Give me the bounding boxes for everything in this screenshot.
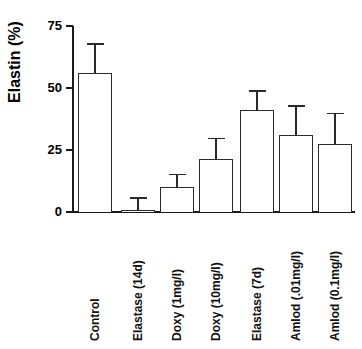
error-bar-cap-7: [327, 113, 344, 115]
bar-3: [160, 187, 194, 212]
x-axis-label-7: Amlod (0.1mg/l): [329, 251, 341, 341]
bar-6: [279, 135, 313, 212]
x-axis-label-1: Control: [89, 298, 101, 341]
elastin-bar-chart-figure: Elastin (%) 0255075 ControlElastase (14d…: [0, 0, 362, 349]
error-bar-stem-5: [256, 90, 258, 110]
x-axis-label-4: Doxy (10mg/l): [210, 262, 222, 341]
error-bar-stem-2: [137, 197, 139, 209]
y-tick-mark-25: [66, 149, 73, 151]
y-tick-mark-75: [66, 25, 73, 27]
error-bar-cap-1: [87, 43, 104, 45]
bar-7: [318, 144, 352, 212]
x-axis-label-2: Elastase (14d): [132, 260, 144, 341]
y-tick-mark-50: [66, 87, 73, 89]
error-bar-cap-4: [208, 138, 225, 140]
plot-area: 0255075 ControlElastase (14d)Doxy (1mg/l…: [0, 0, 362, 349]
bar-1: [78, 73, 112, 212]
error-bar-stem-1: [94, 43, 96, 73]
y-tick-label-25: 25: [18, 143, 62, 156]
error-bar-stem-3: [176, 174, 178, 188]
error-bar-cap-3: [169, 174, 186, 176]
x-axis-label-5: Elastase (7d): [251, 267, 263, 341]
x-axis-label-3: Doxy (1mg/l): [171, 269, 183, 341]
bar-5: [240, 110, 274, 212]
error-bar-stem-6: [295, 105, 297, 135]
error-bar-stem-7: [334, 113, 336, 144]
bar-2: [121, 210, 155, 212]
error-bar-cap-5: [249, 90, 266, 92]
y-tick-label-75: 75: [18, 19, 62, 32]
y-tick-label-0: 0: [18, 205, 62, 218]
y-tick-mark-0: [66, 211, 73, 213]
bar-4: [199, 159, 233, 212]
y-tick-label-50: 50: [18, 81, 62, 94]
y-axis-line: [72, 26, 74, 213]
error-bar-cap-2: [130, 197, 147, 199]
error-bar-stem-4: [215, 138, 217, 159]
error-bar-cap-6: [288, 105, 305, 107]
x-axis-label-6: Amlod (.01mg/l): [290, 251, 302, 341]
